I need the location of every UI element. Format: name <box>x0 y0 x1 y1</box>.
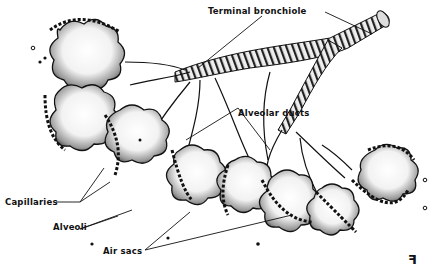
artist-signature: ꟻ <box>408 252 417 267</box>
alveolar-sac <box>358 144 418 201</box>
label-alveoli: Alveoli <box>53 222 87 232</box>
alveolar-sac <box>166 145 226 205</box>
alveolar-sacs <box>50 19 418 235</box>
label-alveolar-ducts: Alveolar ducts <box>238 108 310 118</box>
label-terminal-bronchiole: Terminal bronchiole <box>208 6 307 16</box>
label-air-sacs: Air sacs <box>103 246 142 256</box>
label-capillaries: Capillaries <box>5 197 58 207</box>
diagram-canvas: Terminal bronchiole Alveolar ducts Capil… <box>0 0 438 270</box>
